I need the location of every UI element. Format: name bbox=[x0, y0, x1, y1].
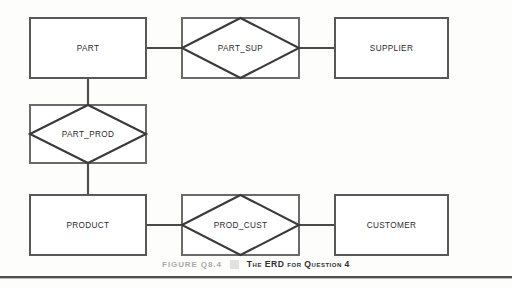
caption-separator-block bbox=[230, 260, 239, 269]
figure-title-label: The ERD for Question 4 bbox=[247, 259, 350, 269]
figure-number-label: FIGURE Q8.4 bbox=[162, 260, 222, 269]
composite-part-sup-label: PART_SUP bbox=[218, 44, 263, 53]
entity-product[interactable]: PRODUCT bbox=[30, 195, 146, 255]
entity-part[interactable]: PART bbox=[30, 18, 146, 78]
erd-diagram: PART PART_SUP SUPPLIER PART_PROD PRODUCT bbox=[0, 0, 512, 262]
bottom-divider-hairline bbox=[0, 278, 512, 279]
entity-part-label: PART bbox=[77, 44, 99, 53]
entity-product-label: PRODUCT bbox=[67, 221, 110, 230]
figure-caption: FIGURE Q8.4 The ERD for Question 4 bbox=[0, 255, 512, 273]
entity-customer-label: CUSTOMER bbox=[367, 221, 417, 230]
figure-container: PART PART_SUP SUPPLIER PART_PROD PRODUCT bbox=[0, 0, 512, 288]
composite-prod-cust-label: PROD_CUST bbox=[214, 221, 268, 230]
erd-canvas: PART PART_SUP SUPPLIER PART_PROD PRODUCT bbox=[0, 0, 512, 262]
entity-supplier[interactable]: SUPPLIER bbox=[335, 18, 448, 78]
composite-entity-prod-cust[interactable]: PROD_CUST bbox=[182, 195, 299, 255]
entity-customer[interactable]: CUSTOMER bbox=[335, 195, 448, 255]
entity-supplier-label: SUPPLIER bbox=[370, 44, 413, 53]
composite-entity-part-sup[interactable]: PART_SUP bbox=[182, 18, 299, 78]
composite-part-prod-label: PART_PROD bbox=[62, 130, 114, 139]
composite-entity-part-prod[interactable]: PART_PROD bbox=[30, 105, 146, 163]
